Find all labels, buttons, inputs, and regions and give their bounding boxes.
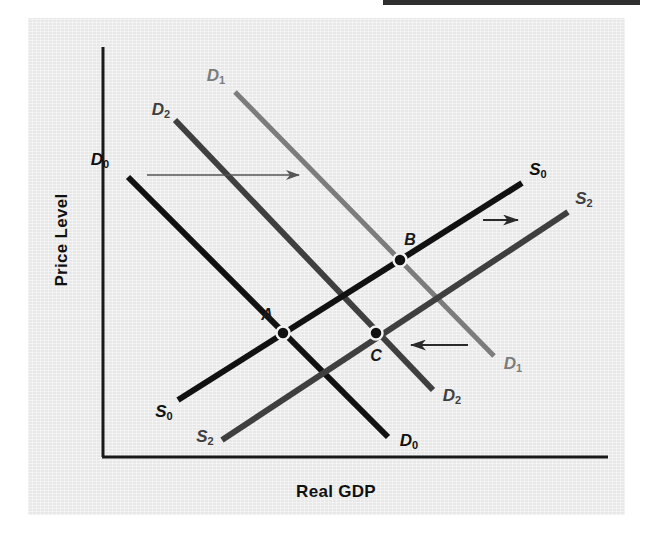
curve-label-subscript: 0 <box>167 410 173 422</box>
curve-label-D1-start: D1 <box>207 66 225 86</box>
curve-label-subscript: 0 <box>541 168 547 180</box>
curve-label-S2-start: S2 <box>196 427 213 447</box>
curve-label-text: D <box>443 386 455 405</box>
curve-label-subscript: 1 <box>516 362 522 374</box>
curve-label-subscript: 2 <box>455 394 461 406</box>
curve-label-text: D <box>207 66 219 85</box>
curve-label-subscript: 2 <box>164 108 170 120</box>
curve-label-D2-start: D2 <box>152 100 170 120</box>
equilibrium-point-C <box>370 327 383 340</box>
curve-label-subscript: 0 <box>412 439 418 451</box>
axes-group <box>102 47 608 457</box>
curve-label-text: S <box>196 427 207 446</box>
curve-label-text: D <box>152 100 164 119</box>
curve-label-text: D <box>91 150 103 169</box>
equilibrium-label-C: C <box>370 347 382 365</box>
curve-label-text: D <box>400 431 412 450</box>
curve-label-S2-end: S2 <box>575 189 592 209</box>
equilibrium-point-B <box>394 254 407 267</box>
curve-label-subscript: 1 <box>219 74 225 86</box>
equilibrium-point-A <box>277 327 290 340</box>
curve-label-D0-start: D0 <box>91 150 109 170</box>
curve-D0 <box>128 177 388 437</box>
curve-label-S0-start: S0 <box>155 402 172 422</box>
curve-label-D1-end: D1 <box>504 354 522 374</box>
shift-arrows-group <box>147 175 518 345</box>
curve-label-D2-end: D2 <box>443 386 461 406</box>
curve-label-subscript: 0 <box>103 158 109 170</box>
figure-root: Price Level Real GDP D0 D0 D2 D2 D1 D1 S… <box>0 0 666 550</box>
x-axis-title: Real GDP <box>296 482 376 502</box>
curve-label-text: S <box>529 160 540 179</box>
curve-label-text: D <box>504 354 516 373</box>
equilibrium-label-B: B <box>404 231 416 249</box>
curve-S0 <box>178 183 522 400</box>
equilibrium-label-A: A <box>261 306 273 324</box>
curves-group <box>128 92 568 440</box>
curve-label-text: S <box>155 402 166 421</box>
curve-label-subscript: 2 <box>587 197 593 209</box>
plot-canvas <box>0 0 666 550</box>
y-axis-title: Price Level <box>52 193 72 286</box>
curve-label-S0-end: S0 <box>529 160 546 180</box>
curve-label-D0-end: D0 <box>400 431 418 451</box>
curve-label-subscript: 2 <box>208 435 214 447</box>
curve-label-text: S <box>575 189 586 208</box>
